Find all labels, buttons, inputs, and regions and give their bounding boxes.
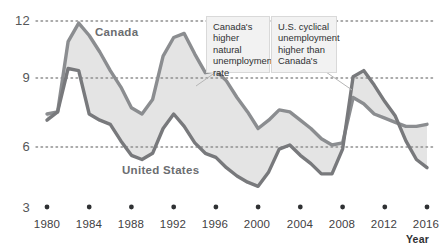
x-tick-dot-2012: [382, 205, 387, 210]
x-tick-2004: 2004: [278, 218, 322, 230]
x-tick-2012: 2012: [362, 218, 406, 230]
x-axis-title: Year: [406, 233, 429, 245]
unemployment-rate-chart: 12 9 6 3 1980 1984 1988 1992 1996 2000 2…: [0, 0, 444, 251]
x-tick-dot-2004: [298, 205, 303, 210]
x-tick-dot-2008: [340, 205, 345, 210]
x-tick-1980: 1980: [25, 218, 69, 230]
series-label-canada: Canada: [95, 26, 138, 38]
series-label-united-states: United States: [122, 164, 199, 176]
y-tick-6: 6: [8, 139, 30, 154]
x-tick-dot-1980: [45, 205, 50, 210]
y-tick-3: 3: [8, 200, 30, 215]
x-tick-1984: 1984: [67, 218, 111, 230]
note-line: Canada's: [278, 55, 331, 66]
x-tick-dot-1992: [171, 205, 176, 210]
annotation-us-cyclical: U.S. cyclical unemployment higher than C…: [271, 16, 337, 73]
x-tick-dot-1996: [214, 205, 219, 210]
note-line: U.S. cyclical: [278, 21, 331, 32]
note-line: higher than: [278, 44, 331, 55]
y-tick-12: 12: [8, 13, 30, 28]
x-tick-1996: 1996: [193, 218, 237, 230]
x-tick-2008: 2008: [320, 218, 364, 230]
note-line: higher natural: [213, 32, 264, 55]
note-line: unemployment: [278, 32, 331, 43]
note-line: rate: [213, 67, 264, 78]
x-tick-1988: 1988: [109, 218, 153, 230]
x-tick-1992: 1992: [151, 218, 195, 230]
y-tick-9: 9: [8, 70, 30, 85]
x-tick-2000: 2000: [235, 218, 279, 230]
note-line: unemployment: [213, 55, 264, 66]
x-tick-dot-1988: [129, 205, 134, 210]
annotation-canada-natural-rate: Canada's higher natural unemployment rat…: [206, 16, 270, 73]
x-tick-dot-2000: [256, 205, 261, 210]
x-tick-dot-1984: [87, 205, 92, 210]
x-tick-dot-2016: [425, 205, 430, 210]
x-tick-2016: 2016: [404, 218, 444, 230]
x-axis-tick-dots: [45, 205, 430, 210]
note-line: Canada's: [213, 21, 264, 32]
